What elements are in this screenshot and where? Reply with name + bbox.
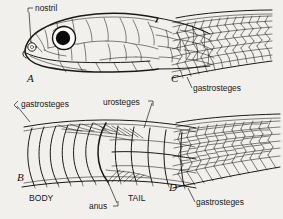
b-dorsal-scale-hatch <box>58 123 143 141</box>
panel-d-keeled-scales: gastrosteges D <box>168 114 280 207</box>
c-gastrosteges-leader <box>187 77 192 88</box>
panel-letter-d: D <box>168 181 177 193</box>
panel-b-anus-label: anus <box>89 201 107 211</box>
b-anus-leader <box>108 182 118 206</box>
panel-b-urosteges-label: urosteges <box>103 97 140 107</box>
panel-d-gastrosteges-label: gastrosteges <box>196 197 244 207</box>
panel-c-gastrosteges-label: gastrosteges <box>193 83 241 93</box>
d-gastrosteges-leader <box>188 188 195 202</box>
panel-letter-c: C <box>171 72 179 84</box>
b-urosteges-leader <box>144 101 153 128</box>
b-tail-midline <box>112 152 196 159</box>
nostril-circle <box>28 43 36 51</box>
nostril-label: nostril <box>35 3 57 13</box>
b-gastrosteges <box>28 123 95 185</box>
panel-b-gastrosteges-label: gastrosteges <box>21 99 69 109</box>
panel-b-ventral: gastrosteges urosteges anus BODY TAIL B <box>14 97 196 211</box>
panel-a-head: nostril A <box>23 3 214 84</box>
eye-pupil <box>56 31 70 45</box>
nostril-leader-line <box>28 8 33 12</box>
panel-b-body-label: BODY <box>29 193 54 203</box>
panel-b-tail-label: TAIL <box>128 193 146 203</box>
panel-letter-b: B <box>17 171 24 183</box>
panel-letter-a: A <box>26 72 34 84</box>
figure-canvas: nostril A <box>0 0 283 219</box>
